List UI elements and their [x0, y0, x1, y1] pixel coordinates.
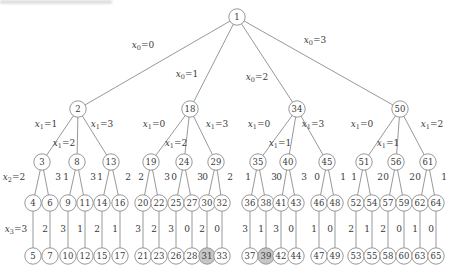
edge-label: 2 — [348, 224, 354, 234]
node-label: 46 — [314, 198, 325, 208]
edge-label: 3 — [273, 224, 279, 234]
node-label: 36 — [245, 198, 256, 208]
node-label: 7 — [47, 251, 52, 261]
node-label: 58 — [383, 251, 394, 261]
node-label: 16 — [115, 198, 126, 208]
node-label: 43 — [291, 198, 302, 208]
edge-label: 3 — [55, 172, 61, 182]
node-label: 5 — [30, 251, 35, 261]
node-label: 54 — [367, 198, 378, 208]
node-label: 63 — [415, 251, 426, 261]
node-label: 12 — [80, 251, 91, 261]
edge-label: 0 — [276, 172, 282, 182]
tree-edge — [78, 109, 111, 162]
node-label: 22 — [154, 198, 165, 208]
edge-label: 1 — [311, 224, 317, 234]
node-label: 26 — [171, 251, 182, 261]
edge-label: 0 — [202, 172, 208, 182]
edge-label: 1 — [441, 172, 447, 182]
node-label: 23 — [154, 251, 165, 261]
edge-label: 3 — [164, 172, 170, 182]
edge-label: 0 — [214, 224, 220, 234]
edge-label: 1 — [97, 172, 103, 182]
edge-label: 1 — [63, 172, 69, 182]
node-label: 31 — [202, 251, 213, 261]
edge-label: 3 — [301, 172, 307, 182]
edge-label: 0 — [396, 224, 402, 234]
node-label: 65 — [431, 251, 442, 261]
edge-label: 1 — [340, 172, 346, 182]
node-label: 55 — [367, 251, 378, 261]
edge-label: x1=2 — [53, 138, 76, 150]
node-label: 20 — [138, 198, 149, 208]
tree-diagram-figure: x0=0x0=1x0=2x0=3x1=1x1=2x1=3x1=0x1=2x1=3… — [0, 0, 464, 276]
node-label: 2 — [75, 104, 80, 114]
node-label: 4 — [30, 198, 35, 208]
node-label: 28 — [187, 251, 198, 261]
node-label: 8 — [74, 157, 79, 167]
node-label: 19 — [146, 157, 157, 167]
node-label: 9 — [65, 198, 70, 208]
edge-label: 1 — [412, 224, 418, 234]
edge-label: x1=0 — [248, 119, 271, 131]
edge-label: 1 — [258, 224, 264, 234]
node-label: 52 — [351, 198, 362, 208]
edge-label: x2=2 — [3, 172, 26, 184]
edge-label: 2 — [125, 172, 131, 182]
edge-label: 1 — [364, 224, 370, 234]
edge-label: 2 — [151, 224, 157, 234]
node-label: 34 — [292, 104, 303, 114]
node-label: 38 — [261, 198, 272, 208]
edge-label: x0=2 — [246, 72, 269, 84]
edge-label: 2 — [227, 172, 233, 182]
node-label: 64 — [431, 198, 442, 208]
node-label: 25 — [171, 198, 182, 208]
edge-label: x1=2 — [165, 138, 188, 150]
node-label: 41 — [276, 198, 287, 208]
node-label: 48 — [330, 198, 341, 208]
node-label: 11 — [80, 198, 91, 208]
node-label: 33 — [217, 251, 228, 261]
tree-edge — [237, 17, 400, 109]
edge-label: x1=3 — [91, 119, 114, 131]
edge-label: 3 — [242, 224, 248, 234]
edge-label: 1 — [351, 172, 357, 182]
node-label: 15 — [97, 251, 108, 261]
edge-label: 3 — [168, 224, 174, 234]
edge-label: x3=3 — [5, 224, 28, 236]
node-label: 1 — [234, 12, 239, 22]
node-label: 6 — [47, 198, 52, 208]
edge-label: x0=0 — [132, 40, 155, 52]
edge-label: x1=3 — [206, 119, 229, 131]
edge-label: 0 — [171, 172, 177, 182]
node-label: 53 — [351, 251, 362, 261]
node-label: 61 — [423, 157, 434, 167]
node-label: 3 — [39, 157, 44, 167]
edge-label: 2 — [94, 224, 100, 234]
node-label: 21 — [138, 251, 149, 261]
edge-label: 3 — [135, 224, 141, 234]
node-label: 40 — [283, 157, 294, 167]
edge-label: 1 — [245, 172, 251, 182]
node-label: 29 — [211, 157, 222, 167]
edge-label: x1=1 — [269, 138, 292, 150]
tree-edge — [400, 109, 428, 162]
node-label: 50 — [395, 104, 406, 114]
edge-label: x1=3 — [302, 119, 325, 131]
edge-label: 1 — [112, 224, 118, 234]
node-label: 10 — [63, 251, 74, 261]
node-label: 51 — [359, 157, 370, 167]
node-label: 62 — [415, 198, 426, 208]
edge-label: x1=0 — [143, 119, 166, 131]
edge-label: x1=1 — [35, 119, 58, 131]
tree-edge — [190, 109, 216, 162]
edge-label: 3 — [60, 224, 66, 234]
edge-label: 1 — [77, 224, 83, 234]
node-label: 42 — [276, 251, 287, 261]
node-label: 56 — [391, 157, 402, 167]
node-label: 13 — [106, 157, 117, 167]
edge-label: 0 — [288, 224, 294, 234]
node-label: 35 — [253, 157, 264, 167]
node-label: 30 — [202, 198, 213, 208]
edge-label: 0 — [428, 224, 434, 234]
